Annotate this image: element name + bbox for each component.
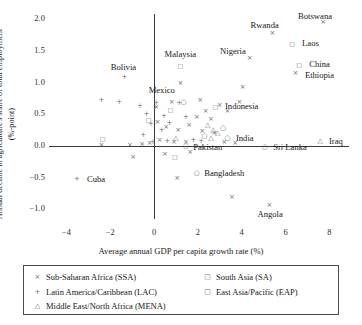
legend-marker-icon: △ xyxy=(32,299,43,314)
data-point-lac: + xyxy=(74,176,80,183)
x-tick-label: 8 xyxy=(314,228,344,237)
data-point-lac: + xyxy=(183,114,189,121)
data-point-lac: + xyxy=(137,103,143,110)
point-label: Pakistan xyxy=(193,142,222,152)
data-point-sa: ○ xyxy=(224,134,230,141)
data-point-ssa: × xyxy=(154,118,160,125)
data-point-sa: ○ xyxy=(181,98,187,105)
data-point-ssa: × xyxy=(174,174,180,181)
y-tick-label: 2.0 xyxy=(5,14,45,23)
legend-label: Sub-Saharan Africa (SSA) xyxy=(46,270,136,285)
data-point-ssa: × xyxy=(269,30,275,37)
data-point-lac: + xyxy=(167,120,173,127)
data-point-ssa: × xyxy=(267,202,273,209)
y-tick-label: −1.0 xyxy=(5,204,45,213)
data-point-ssa: × xyxy=(186,122,192,129)
data-point-lac: + xyxy=(150,138,156,145)
x-tick-label: 6 xyxy=(270,228,300,237)
x-tick-label: −2 xyxy=(95,228,125,237)
point-label: Indonesia xyxy=(225,101,258,111)
data-point-lac: + xyxy=(153,99,159,106)
legend-label: South Asia (SA) xyxy=(216,270,272,285)
data-point-ssa: × xyxy=(99,141,105,148)
data-point-eap: □ xyxy=(213,103,219,110)
legend-item[interactable]: +Latin America/Caribbean (LAC) xyxy=(32,285,166,300)
data-point-lac: + xyxy=(121,73,127,80)
point-label: Sri Lanka xyxy=(273,142,307,152)
data-point-eap: □ xyxy=(100,135,106,142)
legend-item[interactable]: ×Sub-Saharan Africa (SSA) xyxy=(32,270,166,285)
data-point-mena: △ xyxy=(208,134,213,141)
data-point-mena: △ xyxy=(173,134,178,141)
data-point-eap: □ xyxy=(146,116,152,123)
point-label: Bangladesh xyxy=(204,168,244,178)
data-point-lac: + xyxy=(159,127,165,134)
data-point-sa: ○ xyxy=(183,143,189,150)
legend-label: Middle East/North Africa (MENA) xyxy=(46,299,166,314)
point-label: Malaysia xyxy=(165,49,197,59)
data-point-ssa: × xyxy=(194,114,200,121)
point-label: Botswana xyxy=(298,11,332,21)
y-tick-label: 0.0 xyxy=(5,141,45,150)
data-point-sa: ○ xyxy=(194,169,200,176)
data-point-sa: ○ xyxy=(201,133,207,140)
x-tick-label: 2 xyxy=(183,228,213,237)
data-point-lac: + xyxy=(116,98,122,105)
point-label: Angola xyxy=(258,209,283,219)
data-point-sa: ○ xyxy=(220,125,226,132)
x-tick-label: 4 xyxy=(227,228,257,237)
data-point-ssa: × xyxy=(247,55,253,62)
scatter-chart: Annual decline in agriculture's share of… xyxy=(0,0,362,325)
data-point-ssa: × xyxy=(162,150,168,157)
point-label: Cuba xyxy=(87,174,105,184)
data-point-ssa: × xyxy=(240,83,246,90)
legend-item[interactable]: □East Asia/Pacific (EAP) xyxy=(202,285,298,300)
legend-marker-icon: □ xyxy=(202,285,213,300)
point-label: Laos xyxy=(302,38,319,48)
point-label: Iraq xyxy=(329,136,343,146)
data-point-lac: + xyxy=(99,97,105,104)
data-point-eap: □ xyxy=(178,61,184,68)
point-label: Nigeria xyxy=(220,46,246,56)
data-point-ssa: × xyxy=(177,79,183,86)
data-point-ssa: × xyxy=(139,141,145,148)
legend-column-left: ×Sub-Saharan Africa (SSA)+Latin America/… xyxy=(32,270,166,314)
legend-marker-icon: + xyxy=(32,285,43,300)
legend-item[interactable]: △Middle East/North Africa (MENA) xyxy=(32,299,166,314)
legend-label: East Asia/Pacific (EAP) xyxy=(216,285,298,300)
data-point-eap: □ xyxy=(168,106,174,113)
point-label: India xyxy=(236,133,254,143)
x-tick-label: 0 xyxy=(139,228,169,237)
point-label: Mexico xyxy=(149,85,175,95)
data-point-eap: □ xyxy=(172,152,178,159)
data-point-ssa: × xyxy=(197,97,203,104)
x-tick-label: −4 xyxy=(52,228,82,237)
legend-label: Latin America/Caribbean (LAC) xyxy=(46,285,157,300)
point-label: Bolivia xyxy=(111,62,136,72)
data-point-sa: ○ xyxy=(262,144,268,151)
legend-marker-icon: □ xyxy=(202,270,213,285)
point-label: Rwanda xyxy=(251,20,279,30)
y-tick-label: −0.5 xyxy=(5,173,45,182)
legend: ×Sub-Saharan Africa (SSA)+Latin America/… xyxy=(23,265,339,315)
data-point-ssa: × xyxy=(292,70,298,77)
data-point-ssa: × xyxy=(157,136,163,143)
data-point-ssa: × xyxy=(130,154,136,161)
data-point-ssa: × xyxy=(169,98,175,105)
data-point-ssa: × xyxy=(229,193,235,200)
data-point-mena: △ xyxy=(317,137,322,144)
data-point-lac: + xyxy=(164,137,170,144)
data-point-ssa: × xyxy=(127,141,133,148)
point-label: China xyxy=(309,59,330,69)
point-label: Ethiopia xyxy=(305,70,334,80)
legend-item[interactable]: □South Asia (SA) xyxy=(202,270,298,285)
plot-area: ××××××××××××××××××××××××××××××××××××++++… xyxy=(49,14,349,219)
y-tick-label: 1.5 xyxy=(5,46,45,55)
data-point-eap: □ xyxy=(296,60,302,67)
legend-column-right: □South Asia (SA)□East Asia/Pacific (EAP) xyxy=(202,270,298,299)
data-point-ssa: × xyxy=(203,108,209,115)
legend-marker-icon: × xyxy=(32,270,43,285)
y-tick-label: 0.5 xyxy=(5,109,45,118)
data-point-eap: □ xyxy=(289,40,295,47)
data-point-lac: + xyxy=(140,131,146,138)
